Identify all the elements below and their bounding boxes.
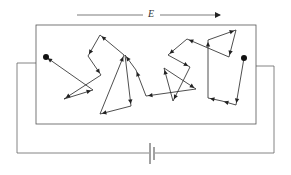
- drift-diagram: E: [0, 0, 291, 175]
- field-label: E: [146, 9, 156, 19]
- start-point-dot: [241, 55, 247, 61]
- diagram-svg: [0, 0, 291, 175]
- end-point-dot: [43, 54, 49, 60]
- conductor-rect: [36, 25, 256, 124]
